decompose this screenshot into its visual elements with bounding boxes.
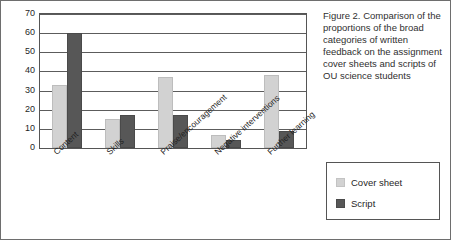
y-axis-tick: 60: [1, 28, 35, 37]
y-axis-tick: 10: [1, 124, 35, 133]
y-axis: 706050403020100: [1, 1, 35, 171]
bar-group: [40, 14, 93, 148]
plot-area: [39, 13, 307, 149]
legend-swatch-icon: [336, 199, 345, 208]
y-axis-tick: 20: [1, 105, 35, 114]
y-axis-tick: 50: [1, 47, 35, 56]
figure-frame: 706050403020100 ContentSkillsPraise/enco…: [0, 0, 451, 240]
legend-item: Cover sheet: [336, 172, 439, 193]
y-axis-tick: 70: [1, 9, 35, 18]
y-axis-tick: 30: [1, 86, 35, 95]
legend-label: Script: [351, 199, 375, 209]
bar-groups: [40, 14, 306, 148]
legend-item: Script: [336, 193, 439, 214]
y-axis-tick: 40: [1, 66, 35, 75]
bar-chart: 706050403020100 ContentSkillsPraise/enco…: [1, 1, 313, 171]
figure-caption: Figure 2. Comparison of the proportions …: [323, 10, 447, 83]
y-axis-tick: 0: [1, 143, 35, 152]
legend-label: Cover sheet: [351, 178, 402, 188]
x-axis: ContentSkillsPraise/encouragementNegativ…: [39, 150, 307, 238]
bar-group: [93, 14, 146, 148]
legend-swatch-icon: [336, 178, 345, 187]
chart-legend: Cover sheetScript: [326, 162, 440, 220]
